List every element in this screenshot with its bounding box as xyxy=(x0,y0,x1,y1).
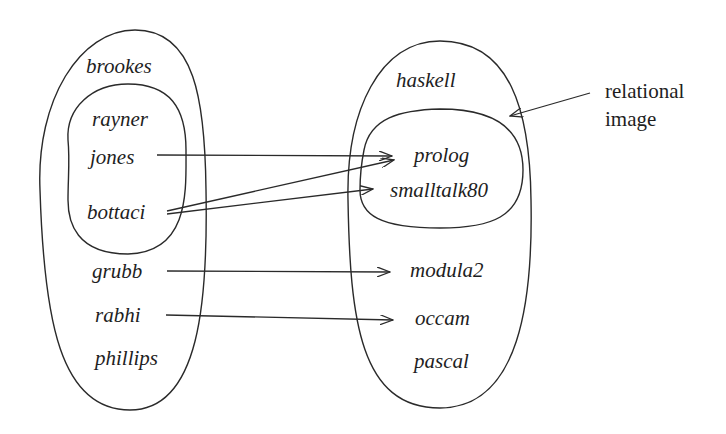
arrow-grubb-modula2 xyxy=(167,271,390,272)
relational-image-diagram: brookes rayner jones bottaci grubb rabhi… xyxy=(0,0,726,434)
label-rayner: rayner xyxy=(92,107,149,131)
arrow-bottaci-smalltalk80 xyxy=(167,189,373,214)
label-jones: jones xyxy=(87,145,134,169)
label-grubb: grubb xyxy=(92,259,142,283)
range-subset-outline xyxy=(360,109,523,228)
arrow-relational-image xyxy=(510,93,590,116)
label-phillips: phillips xyxy=(93,346,158,370)
label-occam: occam xyxy=(415,306,470,330)
label-modula2: modula2 xyxy=(410,258,484,282)
label-smalltalk80: smalltalk80 xyxy=(390,178,488,202)
label-prolog: prolog xyxy=(412,143,469,167)
label-bottaci: bottaci xyxy=(87,200,145,224)
label-pascal: pascal xyxy=(412,349,469,373)
arrow-jones-prolog xyxy=(157,155,392,156)
label-brookes: brookes xyxy=(86,54,152,78)
label-rabhi: rabhi xyxy=(95,303,141,327)
annotation-image: image xyxy=(605,107,656,131)
label-haskell: haskell xyxy=(396,68,456,92)
annotation-relational: relational xyxy=(605,79,684,103)
